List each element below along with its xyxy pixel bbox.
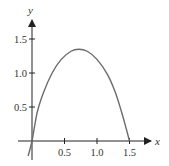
data-curve [28,49,129,156]
y-tick-label: 1.0 [14,68,27,79]
axes [18,20,151,160]
y-axis-label: y [27,4,33,16]
y-tick-label: 0.5 [14,102,27,113]
x-axis-label: x [154,135,160,147]
x-tick-label: 1.5 [123,147,136,158]
y-tick-label: 1.5 [14,34,27,45]
x-tick-label: 0.5 [58,147,71,158]
chart: 0.51.01.50.51.01.5 x y [0,0,169,166]
x-tick-label: 1.0 [90,147,103,158]
